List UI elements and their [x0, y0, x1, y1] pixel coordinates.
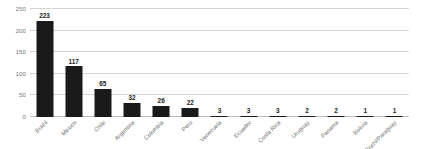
bar-slot: 2: [322, 9, 351, 117]
x-axis-category-labels: BrazilMexicoChileArgentinaColombiaPeruVe…: [30, 119, 409, 149]
x-label-slot: Argentina: [117, 119, 146, 149]
bar-slot: 65: [88, 9, 117, 117]
x-axis-tick-label: Bolivia: [353, 120, 369, 136]
x-label-slot: Ecuador: [234, 119, 263, 149]
x-label-slot: Mexico: [59, 119, 88, 149]
x-axis-tick-label: Panama: [321, 120, 341, 140]
bar-value-label: 65: [99, 81, 106, 87]
x-axis-tick-label: Colombia: [144, 120, 166, 142]
x-axis-tick-label: Brazil: [34, 120, 49, 135]
bar[interactable]: [328, 116, 345, 117]
y-axis-tick-label: 50: [19, 92, 26, 98]
x-label-slot: Peru: [176, 119, 205, 149]
bar-value-label: 32: [128, 95, 135, 101]
bar-chart: 050100150200250 223117653226223332211 Br…: [0, 0, 425, 149]
x-axis-tick-label: Ecuador: [233, 120, 253, 140]
bar-slot: 117: [59, 9, 88, 117]
bar-value-label: 22: [187, 100, 194, 106]
x-label-slot: Brazil/Paraguay: [380, 119, 409, 149]
y-axis-tick-label: 150: [15, 49, 26, 55]
bar-value-label: 1: [393, 108, 397, 114]
bar[interactable]: [269, 116, 286, 117]
bar-value-label: 1: [363, 108, 367, 114]
bar-value-label: 26: [158, 98, 165, 104]
x-axis-tick-label: Argentina: [114, 120, 136, 142]
bar[interactable]: [36, 21, 53, 117]
bar[interactable]: [182, 108, 199, 118]
bar-value-label: 117: [69, 59, 79, 65]
bar-slot: 3: [263, 9, 292, 117]
x-axis-tick-label: Uruguay: [291, 120, 311, 140]
bar-value-label: 2: [305, 108, 309, 114]
bar[interactable]: [357, 116, 374, 117]
x-axis-tick-label: Peru: [182, 120, 195, 133]
x-axis-tick-label: Chile: [93, 120, 107, 134]
bar-value-label: 3: [276, 108, 280, 114]
x-label-slot: Brazil: [30, 119, 59, 149]
bar-slot: 26: [147, 9, 176, 117]
y-axis-tick-labels: 050100150200250: [0, 9, 26, 117]
bar[interactable]: [211, 116, 228, 117]
bar-slot: 2: [292, 9, 321, 117]
bar-value-label: 3: [218, 108, 222, 114]
x-label-slot: Uruguay: [292, 119, 321, 149]
y-axis-tick-label: 0: [22, 114, 26, 120]
bar-slot: 32: [117, 9, 146, 117]
bar-value-label: 2: [334, 108, 338, 114]
y-axis-tick-label: 250: [15, 6, 26, 12]
x-label-slot: Chile: [88, 119, 117, 149]
y-axis-tick-label: 100: [15, 71, 26, 77]
bar-value-label: 3: [247, 108, 251, 114]
x-label-slot: Venezuela: [205, 119, 234, 149]
bar[interactable]: [94, 89, 111, 117]
bar[interactable]: [298, 116, 315, 117]
bar-slot: 22: [176, 9, 205, 117]
bar-value-label: 223: [39, 13, 50, 19]
x-axis-tick-label: Mexico: [61, 120, 78, 137]
y-axis-tick-label: 200: [15, 27, 26, 33]
bar[interactable]: [124, 103, 141, 117]
bar[interactable]: [386, 116, 403, 117]
bar-slot: 223: [30, 9, 59, 117]
bar-slot: 1: [351, 9, 380, 117]
x-label-slot: Costa Rica: [263, 119, 292, 149]
bar-slot: 3: [234, 9, 263, 117]
bar-slot: 3: [205, 9, 234, 117]
bar[interactable]: [65, 66, 82, 117]
bar-series: 223117653226223332211: [30, 9, 409, 117]
bar[interactable]: [153, 106, 170, 117]
x-label-slot: Panama: [322, 119, 351, 149]
bar-slot: 1: [380, 9, 409, 117]
x-label-slot: Colombia: [147, 119, 176, 149]
bar[interactable]: [240, 116, 257, 117]
